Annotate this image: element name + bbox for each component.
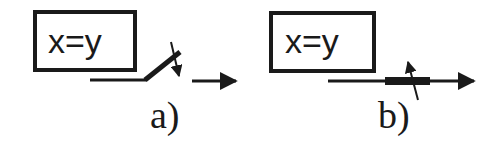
panel-b: x=y b) (271, 13, 474, 137)
condition-text: x=y (48, 22, 102, 60)
diagram-canvas: x=y a) x=y b) (0, 0, 502, 144)
switch-closed-blade (385, 77, 430, 85)
panel-a: x=y a) (35, 12, 236, 137)
panel-label-a: a) (150, 94, 180, 137)
panel-label-b: b) (378, 94, 410, 137)
condition-text: x=y (285, 22, 339, 60)
